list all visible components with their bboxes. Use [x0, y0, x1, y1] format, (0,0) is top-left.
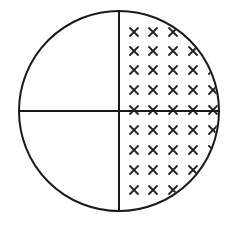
x-mark-icon [149, 28, 157, 36]
x-mark-icon [130, 166, 138, 174]
x-mark-icon [130, 47, 138, 55]
x-mark-icon [189, 86, 197, 94]
x-mark-icon [130, 146, 138, 154]
x-mark-icon [209, 166, 217, 174]
x-mark-icon [149, 47, 157, 55]
x-mark-icon [209, 28, 217, 36]
x-mark-icon [169, 47, 177, 55]
x-mark-icon [189, 66, 197, 74]
x-mark-icon [189, 186, 197, 194]
x-mark-icon [209, 186, 217, 194]
x-mark-icon [149, 126, 157, 134]
x-mark-icon [189, 126, 197, 134]
x-mark-icon [130, 186, 138, 194]
x-mark-icon [130, 86, 138, 94]
x-mark-icon [189, 166, 197, 174]
x-mark-icon [130, 28, 138, 36]
x-mark-icon [149, 186, 157, 194]
x-mark-icon [130, 66, 138, 74]
x-mark-icon [149, 166, 157, 174]
x-mark-icon [169, 146, 177, 154]
x-mark-icon [130, 126, 138, 134]
x-mark-icon [189, 28, 197, 36]
x-mark-icon [169, 166, 177, 174]
x-mark-icon [149, 66, 157, 74]
x-mark-icon [209, 47, 217, 55]
diagram-canvas [0, 0, 238, 225]
x-mark-icon [189, 146, 197, 154]
x-mark-icon [149, 146, 157, 154]
x-mark-icon [169, 126, 177, 134]
x-mark-icon [149, 86, 157, 94]
circle-quadrant-diagram [0, 0, 238, 225]
x-mark-icon [169, 86, 177, 94]
x-mark-icon [169, 66, 177, 74]
